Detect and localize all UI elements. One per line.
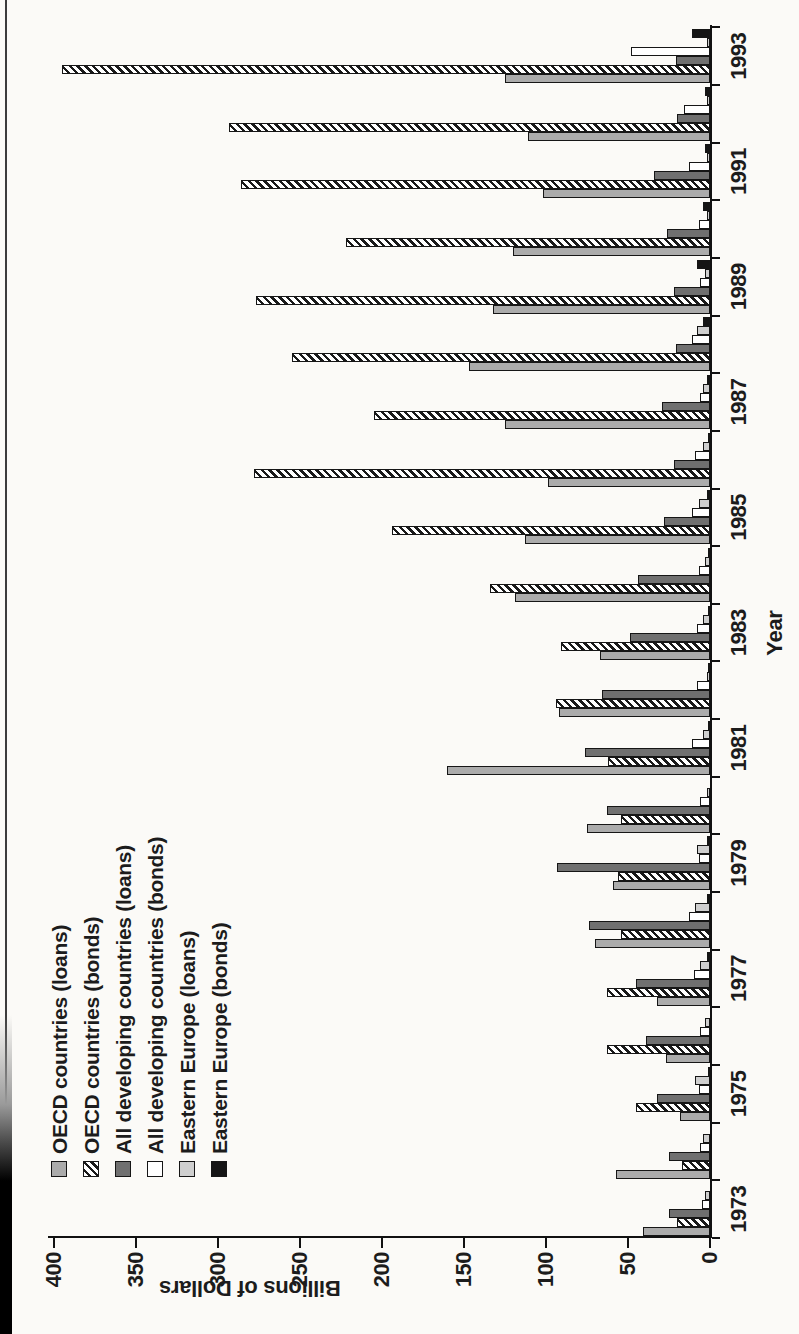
year-tick — [712, 891, 720, 893]
value-tick-label: 50 — [617, 1252, 639, 1316]
bar — [561, 642, 710, 651]
bar — [708, 606, 710, 615]
bar — [697, 326, 710, 335]
bar — [669, 1209, 710, 1218]
legend-label: All developing countries (bonds) — [144, 837, 168, 1154]
bar — [708, 548, 710, 557]
bar — [705, 1018, 710, 1027]
bar — [689, 163, 710, 172]
value-tick — [545, 1238, 547, 1248]
bar — [702, 1200, 710, 1209]
bar — [708, 721, 710, 730]
bar — [392, 526, 710, 535]
bar — [346, 238, 710, 247]
value-tick-label: 0 — [699, 1252, 721, 1316]
rotated-bar-chart: 050100150200250300350400 197319751977197… — [0, 0, 799, 1334]
bar — [631, 47, 710, 56]
bar — [664, 517, 710, 526]
bar — [705, 145, 710, 154]
bar — [618, 872, 710, 881]
value-tick-label: 350 — [125, 1252, 147, 1316]
year-tick — [712, 84, 720, 86]
bar — [585, 748, 710, 757]
bar — [707, 788, 710, 797]
bar — [589, 921, 710, 930]
bar — [515, 593, 710, 602]
year-label: 1987 — [727, 367, 751, 437]
bar — [505, 420, 710, 429]
bar — [689, 912, 710, 921]
bar — [700, 1027, 710, 1036]
bar — [692, 508, 710, 517]
bar — [607, 988, 710, 997]
bar — [62, 65, 710, 74]
bar — [707, 375, 710, 384]
bar — [607, 806, 710, 815]
bar — [697, 260, 710, 269]
bar — [707, 894, 710, 903]
value-tick — [627, 1238, 629, 1248]
year-tick — [712, 1179, 720, 1181]
bar — [703, 384, 710, 393]
bar — [621, 930, 710, 939]
legend-label: Eastern Europe (loans) — [176, 931, 200, 1154]
bar — [636, 1103, 710, 1112]
bar — [695, 903, 710, 912]
bar — [707, 490, 710, 499]
year-label: 1977 — [727, 944, 751, 1014]
year-tick — [712, 1122, 720, 1124]
year-tick — [712, 372, 720, 374]
year-tick — [712, 718, 720, 720]
bar — [703, 1134, 710, 1143]
value-tick-label: 400 — [43, 1252, 65, 1316]
legend-label: OECD countries (loans) — [48, 925, 72, 1154]
year-tick — [712, 430, 720, 432]
bar — [241, 181, 710, 190]
year-tick — [712, 1237, 720, 1239]
year-tick — [712, 315, 720, 317]
bar — [630, 633, 710, 642]
bar — [677, 114, 710, 123]
bar — [548, 478, 710, 487]
bar — [705, 1191, 710, 1200]
bar — [490, 584, 710, 593]
value-tick — [53, 1238, 55, 1248]
bar — [587, 824, 710, 833]
bar — [692, 335, 710, 344]
value-tick — [463, 1238, 465, 1248]
bar — [447, 766, 710, 775]
value-tick-label: 200 — [371, 1252, 393, 1316]
bar — [684, 105, 710, 114]
bar — [638, 575, 710, 584]
year-label: 1991 — [727, 136, 751, 206]
bar — [707, 38, 710, 47]
bar — [636, 979, 710, 988]
year-tick — [712, 776, 720, 778]
bar — [707, 96, 710, 105]
bar — [666, 1054, 710, 1063]
bar — [254, 469, 710, 478]
bar — [707, 211, 710, 220]
year-tick — [712, 661, 720, 663]
bar — [662, 402, 710, 411]
bar — [657, 1094, 710, 1103]
bar — [669, 1152, 710, 1161]
bar — [707, 154, 710, 163]
bar — [707, 836, 710, 845]
bar — [700, 961, 710, 970]
legend-swatch-oecd-loans — [51, 1161, 67, 1177]
scanned-page: { "page": { "description": "Scanned book… — [0, 0, 799, 1334]
bar — [229, 123, 710, 132]
year-tick — [712, 1064, 720, 1066]
bar — [674, 287, 710, 296]
bar — [707, 952, 710, 961]
bar — [705, 87, 710, 96]
bar — [643, 1227, 710, 1236]
bar — [703, 202, 710, 211]
bar — [556, 699, 710, 708]
legend-swatch-oecd-bonds — [83, 1161, 99, 1177]
bar — [700, 797, 710, 806]
category-axis-line — [710, 25, 712, 1238]
bar — [621, 815, 710, 824]
bar — [708, 663, 710, 672]
